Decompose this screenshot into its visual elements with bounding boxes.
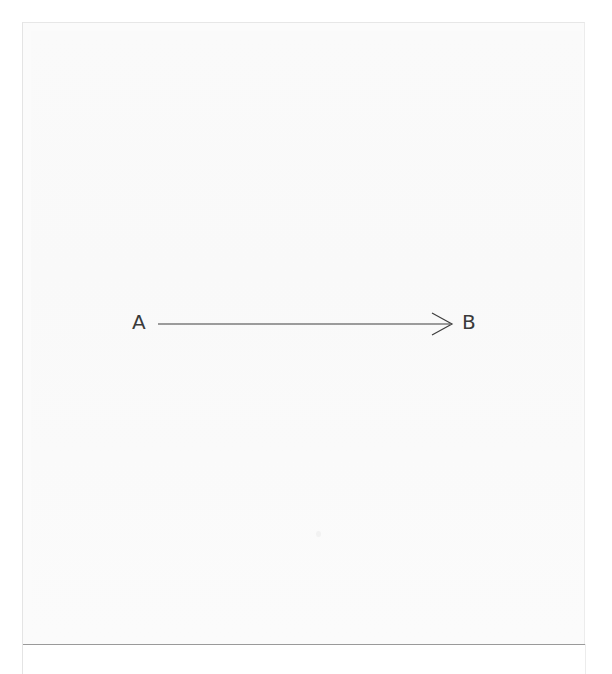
scanned-page: A B — [0, 0, 612, 674]
arrow-diagram: A B — [128, 304, 488, 344]
node-label-a: A — [132, 310, 146, 334]
page-left-margin-line — [22, 644, 23, 674]
scan-artifact-speck — [316, 531, 321, 537]
page-bottom-rule — [22, 644, 585, 645]
edge-arrow-a-to-b — [158, 304, 458, 344]
node-label-b: B — [462, 310, 476, 334]
page-right-margin-line — [585, 644, 586, 674]
